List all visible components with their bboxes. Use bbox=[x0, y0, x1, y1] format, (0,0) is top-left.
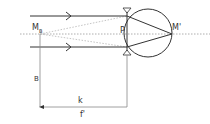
dotted-ray-upper bbox=[40, 16, 127, 34]
label-p: P bbox=[120, 27, 125, 35]
label-mb: MB bbox=[32, 24, 42, 34]
refracted-ray-lower bbox=[127, 34, 172, 47]
label-k: k bbox=[78, 97, 83, 105]
eye-optics-diagram bbox=[0, 0, 210, 124]
eyeball-circle bbox=[124, 9, 172, 57]
label-m-prime: M' bbox=[172, 24, 181, 32]
refracted-ray-upper bbox=[127, 16, 172, 34]
label-f-prime: f' bbox=[80, 111, 85, 119]
label-b: B bbox=[34, 76, 39, 83]
dotted-ray-lower bbox=[40, 34, 127, 47]
